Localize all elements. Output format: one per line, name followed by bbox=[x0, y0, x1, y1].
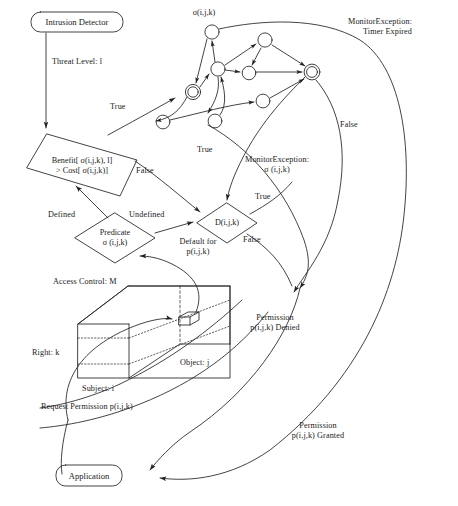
state-machine-accept-state-shape bbox=[304, 64, 320, 80]
permission-granted-line2: p(i,j,k) Granted bbox=[292, 431, 344, 441]
edge-false-from-monitor bbox=[294, 80, 342, 292]
access-control-matrix-label: Access Control: M bbox=[53, 277, 117, 287]
edge-label-defined: Defined bbox=[48, 210, 75, 220]
state-machine-transitions bbox=[156, 39, 305, 129]
edge-label-permission-denied: Permission p(i,j,k) Denied bbox=[250, 313, 299, 334]
permission-denied-line1: Permission bbox=[250, 313, 299, 323]
state-machine-state-b-shape bbox=[211, 62, 225, 76]
cube-axis-label-subject: Subject: i bbox=[82, 384, 114, 394]
state-machine-state-e-shape bbox=[256, 94, 270, 108]
permission-granted-line1: Permission bbox=[292, 421, 344, 431]
edge-label-true-to-state-machine: True bbox=[110, 102, 126, 112]
edge-true-from-state-machine bbox=[227, 77, 305, 200]
edge-monitor-exception-sigma bbox=[208, 125, 308, 288]
edge-label-false-from-monitor: False bbox=[340, 120, 358, 130]
predicate-label-line2: σ (i,j,k) bbox=[100, 238, 130, 248]
state-machine-state-c-shape bbox=[242, 66, 256, 80]
decision-label: D(i,j,k) bbox=[215, 218, 239, 228]
monitor-exception-timer-line1: MonitorException: bbox=[348, 17, 412, 27]
monitor-exception-sigma-line1: MonitorException: bbox=[245, 155, 309, 165]
default-for-line2: p(i,j,k) bbox=[179, 247, 216, 257]
state-machine-state-a-shape bbox=[205, 25, 219, 39]
diagram-canvas: Intrusion Detector Threat Level: l Benef… bbox=[0, 0, 458, 506]
predicate-label: Predicate σ (i,j,k) bbox=[100, 228, 130, 249]
edge-label-true-from-state-machine: True bbox=[197, 145, 213, 155]
edge-matrix-to-predicate bbox=[140, 256, 199, 312]
edge-label-undefined: Undefined bbox=[129, 210, 164, 220]
edge-label-false-from-decision: False bbox=[243, 235, 261, 245]
predicate-label-line1: Predicate bbox=[100, 228, 130, 238]
state-machine-start-state-shape bbox=[185, 84, 200, 99]
benefit-cost-label: Benefit[ σ(i,j,k), l] > Cost[ σ(i,j,k)] bbox=[52, 156, 113, 177]
edge-label-default-for: Default for p(i,j,k) bbox=[179, 237, 216, 258]
benefit-cost-label-line2: > Cost[ σ(i,j,k)] bbox=[52, 166, 113, 176]
diagram-vector-layer bbox=[0, 0, 458, 506]
edge-label-request-permission: Request Permission p(i,j,k) bbox=[41, 402, 133, 412]
matrix-cell-shape bbox=[179, 312, 199, 325]
edge-label-monitor-exception-timer: MonitorException: Timer Expired bbox=[348, 17, 412, 38]
cube-axis-label-right: Right: k bbox=[32, 348, 59, 358]
application-label: Application bbox=[69, 471, 110, 481]
edge-undefined bbox=[155, 222, 193, 233]
default-for-line1: Default for bbox=[179, 237, 216, 247]
edge-label-monitor-exception-sigma: MonitorException: σ (i,j,k) bbox=[245, 155, 309, 176]
cube-axis-label-object: Object: j bbox=[180, 358, 209, 368]
benefit-cost-label-line1: Benefit[ σ(i,j,k), l] bbox=[52, 156, 113, 166]
edge-permission-denied-curve bbox=[40, 300, 242, 408]
state-machine-state-d-shape bbox=[258, 33, 272, 47]
intrusion-detector-label: Intrusion Detector bbox=[46, 17, 109, 27]
edge-label-threat-level: Threat Level: l bbox=[52, 57, 102, 67]
monitor-exception-timer-line2: Timer Expired bbox=[348, 27, 412, 37]
edge-label-true-from-decision: True bbox=[255, 192, 271, 202]
state-machine-sigma-label: σ(i,j,k) bbox=[193, 8, 216, 17]
edge-label-permission-granted: Permission p(i,j,k) Granted bbox=[292, 421, 344, 442]
monitor-exception-sigma-line2: σ (i,j,k) bbox=[245, 165, 309, 175]
edge-label-false-from-benefit: False bbox=[136, 166, 154, 176]
permission-denied-line2: p(i,j,k) Denied bbox=[250, 323, 299, 333]
access-control-cube-hidden-edges bbox=[78, 300, 230, 364]
